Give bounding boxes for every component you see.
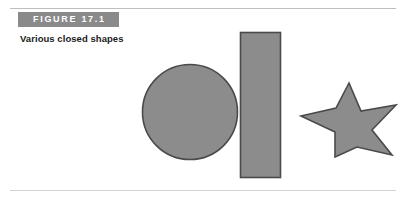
- shapes-canvas: [0, 0, 413, 197]
- shapes-illustration: [0, 0, 413, 197]
- rectangle-shape: [241, 33, 281, 178]
- bottom-divider-rule: [10, 190, 396, 191]
- circle-shape: [143, 65, 238, 160]
- figure-page: FIGURE 17.1 Various closed shapes: [0, 0, 413, 197]
- star-shape: [301, 83, 396, 157]
